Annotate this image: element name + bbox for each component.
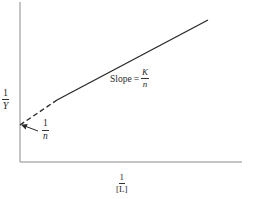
y-axis-label-numerator: 1 bbox=[2, 88, 9, 100]
x-axis-label-denominator: [L] bbox=[116, 184, 128, 194]
x-axis-label-numerator: 1 bbox=[119, 173, 126, 184]
extrapolation-dashed-line bbox=[20, 100, 57, 125]
intercept-arrow-icon bbox=[22, 125, 38, 131]
slope-annotation: Slope = K n bbox=[110, 68, 149, 89]
intercept-annotation: 1 n bbox=[42, 119, 49, 141]
intercept-numerator: 1 bbox=[42, 119, 49, 131]
slope-fraction: K n bbox=[141, 68, 149, 89]
plot-area bbox=[0, 0, 258, 199]
slope-denominator: n bbox=[143, 79, 148, 89]
slope-numerator: K bbox=[141, 68, 149, 79]
y-axis-label: 1 Y bbox=[2, 88, 9, 111]
intercept-denominator: n bbox=[43, 131, 48, 142]
x-axis-label: 1 [L] bbox=[116, 173, 128, 194]
y-axis-label-denominator: Y bbox=[3, 100, 9, 111]
slope-equals: = bbox=[134, 74, 139, 84]
slope-prefix: Slope bbox=[110, 74, 132, 84]
